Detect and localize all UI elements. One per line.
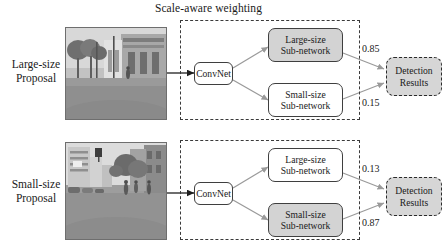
sub-network-line1: Small-size <box>285 89 326 101</box>
weight-label-small-row1: 0.15 <box>362 97 380 108</box>
row-label-line2: Proposal <box>0 191 72 205</box>
proposal-image-small <box>65 142 167 240</box>
detection-results-line2: Results <box>400 197 428 209</box>
street-scene-small-illustration <box>66 143 166 239</box>
sub-network-line1: Large-size <box>285 154 325 166</box>
proposal-image-large <box>65 27 167 120</box>
weight-label-small-row2: 0.87 <box>362 217 380 228</box>
large-size-sub-network-box-row1[interactable]: Large-size Sub-network <box>268 28 343 62</box>
sub-network-line1: Small-size <box>285 209 326 221</box>
street-scene-large-illustration <box>66 28 166 119</box>
convnet-label: ConvNet <box>196 68 231 80</box>
detection-results-line1: Detection <box>395 65 432 77</box>
detection-results-box-row1[interactable]: Detection Results <box>386 57 442 96</box>
detection-results-line1: Detection <box>395 185 432 197</box>
large-size-sub-network-box-row2[interactable]: Large-size Sub-network <box>268 148 343 182</box>
figure-canvas: Scale-aware weighting <box>0 0 447 242</box>
sub-network-line2: Sub-network <box>281 220 331 232</box>
convnet-box-row2[interactable]: ConvNet <box>194 182 233 205</box>
row-label-line2: Proposal <box>0 71 72 85</box>
small-size-sub-network-box-row1[interactable]: Small-size Sub-network <box>268 83 343 117</box>
convnet-box-row1[interactable]: ConvNet <box>194 62 233 85</box>
row-label-line1: Large-size <box>0 57 72 71</box>
sub-network-line2: Sub-network <box>281 100 331 112</box>
figure-title-text: Scale-aware weighting <box>155 2 262 14</box>
small-size-sub-network-box-row2[interactable]: Small-size Sub-network <box>268 203 343 237</box>
row-label-line1: Small-size <box>0 177 72 191</box>
weight-label-large-row1: 0.85 <box>362 43 380 54</box>
sub-network-line2: Sub-network <box>281 165 331 177</box>
detection-results-box-row2[interactable]: Detection Results <box>386 177 442 216</box>
sub-network-line2: Sub-network <box>281 45 331 57</box>
detection-results-line2: Results <box>400 77 428 89</box>
figure-title: Scale-aware weighting <box>0 2 447 14</box>
weight-label-large-row2: 0.13 <box>362 163 380 174</box>
sub-network-line1: Large-size <box>285 34 325 46</box>
row-label-small-size-proposal: Small-size Proposal <box>0 177 72 205</box>
convnet-label: ConvNet <box>196 188 231 200</box>
row-label-large-size-proposal: Large-size Proposal <box>0 57 72 85</box>
